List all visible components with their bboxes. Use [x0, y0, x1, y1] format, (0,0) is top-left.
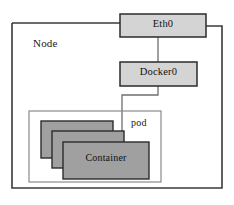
- docker0-label: Docker0: [120, 66, 197, 77]
- container-label: Container: [63, 152, 149, 163]
- pod-label: pod: [131, 117, 147, 128]
- diagram-canvas: Node pod Eth0 Docker0 Container: [0, 0, 234, 205]
- diagram-vector-layer: [0, 0, 234, 205]
- eth0-label: Eth0: [120, 18, 206, 29]
- node-label: Node: [33, 37, 58, 49]
